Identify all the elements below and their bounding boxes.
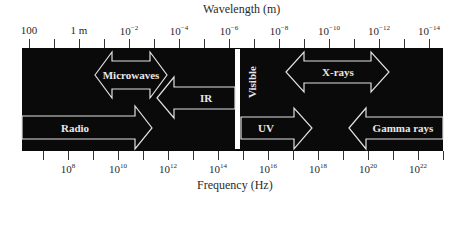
frequency-tick-label: 1020 (359, 162, 377, 175)
frequency-tick (143, 151, 144, 160)
frequency-tick (368, 151, 369, 160)
frequency-axis-title: Frequency (Hz) (197, 178, 273, 193)
frequency-tick (268, 151, 269, 160)
frequency-tick (418, 151, 419, 160)
uv-label: UV (258, 122, 274, 134)
frequency-tick-label: 1014 (209, 162, 227, 175)
xrays-label: X-rays (322, 66, 354, 78)
frequency-tick (93, 151, 94, 160)
gamma-label: Gamma rays (373, 122, 435, 134)
frequency-tick-label: 108 (61, 162, 76, 175)
ir-label: IR (200, 92, 213, 104)
frequency-tick (243, 151, 244, 160)
visible-bar (235, 49, 240, 149)
ir-arrow (157, 77, 235, 118)
frequency-tick-label: 1016 (259, 162, 277, 175)
frequency-tick-label: 1018 (309, 162, 327, 175)
frequency-tick (193, 151, 194, 160)
frequency-tick (343, 151, 344, 160)
frequency-tick (218, 151, 219, 160)
microwaves-label: Microwaves (103, 69, 160, 81)
visible-label: Visible (246, 66, 258, 98)
frequency-tick (118, 151, 119, 160)
frequency-tick (293, 151, 294, 160)
frequency-tick-label: 1022 (409, 162, 427, 175)
frequency-tick (318, 151, 319, 160)
frequency-tick (168, 151, 169, 160)
uv-arrow (241, 108, 312, 149)
frequency-tick-label: 1010 (109, 162, 127, 175)
frequency-tick (443, 151, 444, 160)
radio-label: Radio (61, 122, 90, 134)
frequency-tick-label: 1012 (159, 162, 177, 175)
frequency-tick (393, 151, 394, 160)
frequency-tick (43, 151, 44, 160)
frequency-tick (68, 151, 69, 160)
